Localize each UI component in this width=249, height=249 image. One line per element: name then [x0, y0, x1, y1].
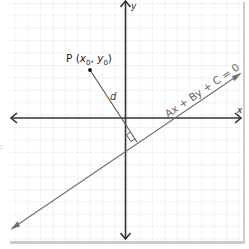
margin-mark: : [0, 143, 2, 151]
x-axis-label: x [236, 105, 243, 115]
diagram-canvas: P (x0, y0) d Ax + By + C = 0 x y : [0, 0, 249, 249]
y-axis-label: y [130, 1, 137, 11]
distance-label: d [110, 91, 117, 102]
point-p [88, 68, 92, 72]
